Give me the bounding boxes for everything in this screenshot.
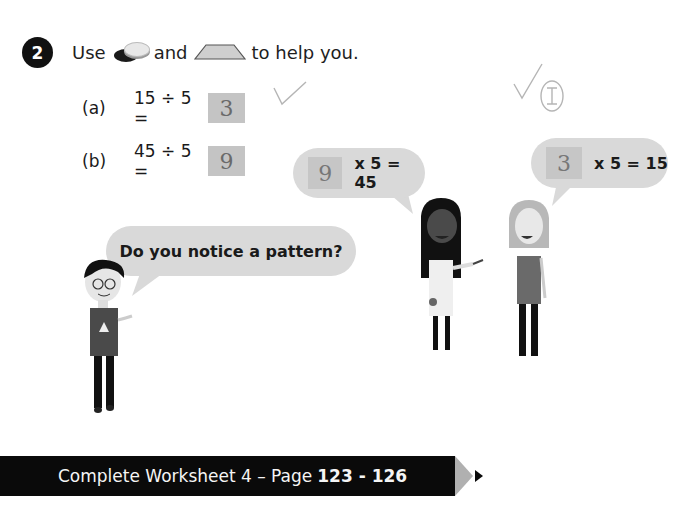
counters-icon [112,40,148,64]
boy-character-illustration [78,258,138,418]
trapezium-icon [194,44,246,60]
tick-circled-i-icon [512,62,572,114]
question-a-expression: 15 ÷ 5 = [134,88,208,128]
speech-bubble-left-girl: 9 x 5 = 45 [293,148,425,198]
speech-bubble-right-girl: 3 x 5 = 15 [531,138,668,188]
speech-bubble-boy: Do you notice a pattern? [106,226,356,276]
banner-arrow-icon [455,456,485,496]
bubble-answer-box[interactable]: 9 [308,157,342,189]
question-b-label: (b) [82,151,134,171]
banner-text: Complete Worksheet 4 – Page [58,466,312,486]
question-number-badge: 2 [22,37,53,68]
question-b-answer-box[interactable]: 9 [208,146,245,176]
instruction-mid: and [154,42,188,63]
worksheet-banner: Complete Worksheet 4 – Page 123 - 126 [0,456,455,496]
instruction-prefix: Use [72,42,106,63]
girl-left-character-illustration [415,198,485,358]
question-b-expression: 45 ÷ 5 = [134,141,208,181]
bubble-question-text: Do you notice a pattern? [120,242,343,261]
question-a-label: (a) [82,98,134,118]
girl-right-character-illustration [505,198,555,363]
instruction-suffix: to help you. [252,42,359,63]
bubble-answer-box[interactable]: 3 [546,147,582,179]
banner-pages: 123 - 126 [317,466,407,486]
question-instruction: Use and to help you. [72,40,359,64]
tick-mark-icon [270,80,310,110]
question-a-row: (a) 15 ÷ 5 = 3 [82,88,245,128]
question-a-answer-box[interactable]: 3 [208,93,245,123]
bubble-equation: x 5 = 15 [594,154,668,173]
question-b-row: (b) 45 ÷ 5 = 9 [82,141,245,181]
bubble-equation: x 5 = 45 [354,154,425,192]
